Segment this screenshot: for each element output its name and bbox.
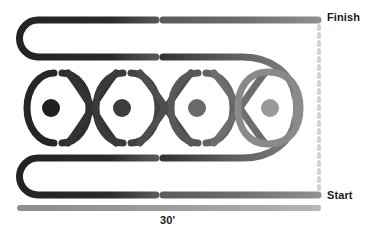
- cone-4: [261, 99, 279, 117]
- cone-3: [188, 99, 206, 117]
- finish-label: Finish: [327, 11, 360, 23]
- cone-1: [42, 99, 60, 117]
- finish-lane-uturn: [20, 20, 157, 57]
- cone-pattern-diagram: [0, 0, 378, 238]
- cone-2: [113, 99, 131, 117]
- distance-label: 30': [160, 214, 175, 226]
- start-lane-uturn: [20, 158, 157, 195]
- loop-4-outer-join: [295, 96, 297, 120]
- diagram-page: Finish Start 30': [0, 0, 378, 238]
- start-label: Start: [327, 189, 353, 201]
